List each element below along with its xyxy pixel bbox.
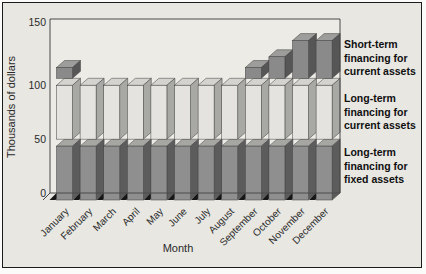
x-category-label: April: [120, 206, 142, 228]
legend-item-long-term-current: Long-term financing for current assets: [344, 92, 426, 133]
segment-side-face: [214, 139, 222, 200]
segment-front-face: [104, 146, 120, 200]
segment-front-face: [175, 146, 191, 200]
legend-line: Long-term: [344, 146, 426, 160]
segment-front-face: [293, 41, 309, 79]
legend-line: current assets: [344, 119, 426, 133]
segment-side-face: [120, 78, 128, 139]
legend-line: financing for: [344, 160, 426, 174]
segment-side-face: [143, 139, 151, 200]
segment-front-face: [222, 85, 238, 139]
segment-side-face: [238, 78, 246, 139]
segment-front-face: [127, 146, 143, 200]
segment-side-face: [332, 34, 340, 79]
segment-front-face: [245, 146, 261, 200]
segment-side-face: [73, 78, 81, 139]
x-category-label: June: [166, 205, 189, 228]
scanned-chart-figure: JanuaryFebruaryMarchAprilMayJuneJulyAugu…: [0, 0, 426, 274]
segment-front-face: [80, 146, 96, 200]
x-axis-title: Month: [163, 242, 194, 254]
segment-front-face: [269, 85, 285, 139]
x-category-label: July: [192, 206, 212, 226]
segment-front-face: [269, 57, 285, 79]
y-axis-title: Thousands of dollars: [5, 55, 17, 158]
segment-front-face: [80, 85, 96, 139]
segment-front-face: [316, 146, 332, 200]
segment-side-face: [309, 34, 317, 79]
segment-front-face: [198, 146, 214, 200]
segment-side-face: [120, 139, 128, 200]
segment-front-face: [57, 146, 73, 200]
segment-side-face: [143, 78, 151, 139]
segment-front-face: [293, 85, 309, 139]
legend-item-short-term-current: Short-term financing for current assets: [344, 38, 426, 79]
segment-front-face: [127, 85, 143, 139]
segment-side-face: [191, 78, 199, 139]
legend-line: Long-term: [344, 92, 426, 106]
legend-line: financing for: [344, 52, 426, 66]
segment-front-face: [222, 146, 238, 200]
x-category-label: March: [91, 206, 118, 233]
legend-line: financing for: [344, 106, 426, 120]
segment-front-face: [269, 146, 285, 200]
segment-side-face: [309, 139, 317, 200]
segment-front-face: [198, 85, 214, 139]
segment-side-face: [332, 78, 340, 139]
segment-front-face: [316, 85, 332, 139]
y-tick-label: 150: [28, 16, 46, 28]
segment-side-face: [285, 78, 293, 139]
segment-front-face: [245, 85, 261, 139]
segment-front-face: [57, 85, 73, 139]
segment-side-face: [96, 139, 104, 200]
legend-line: fixed assets: [344, 173, 426, 187]
segment-front-face: [245, 68, 261, 79]
legend-item-long-term-fixed: Long-term financing for fixed assets: [344, 146, 426, 187]
segment-front-face: [104, 85, 120, 139]
segment-side-face: [309, 78, 317, 139]
segment-side-face: [238, 139, 246, 200]
segment-front-face: [316, 41, 332, 79]
segment-front-face: [151, 85, 167, 139]
legend-line: Short-term: [344, 38, 426, 52]
segment-side-face: [167, 78, 175, 139]
segment-side-face: [261, 78, 269, 139]
segment-side-face: [167, 139, 175, 200]
segment-side-face: [332, 139, 340, 200]
segment-side-face: [73, 139, 81, 200]
segment-side-face: [261, 139, 269, 200]
segment-side-face: [285, 139, 293, 200]
segment-front-face: [175, 85, 191, 139]
y-tick-label: 50: [34, 133, 46, 145]
segment-side-face: [191, 139, 199, 200]
segment-front-face: [293, 146, 309, 200]
y-tick-label: 0: [40, 187, 46, 199]
segment-front-face: [57, 68, 73, 79]
y-tick-label: 100: [28, 79, 46, 91]
x-category-label: May: [144, 206, 165, 227]
segment-front-face: [151, 146, 167, 200]
segment-side-face: [214, 78, 222, 139]
segment-side-face: [96, 78, 104, 139]
legend-line: current assets: [344, 65, 426, 79]
